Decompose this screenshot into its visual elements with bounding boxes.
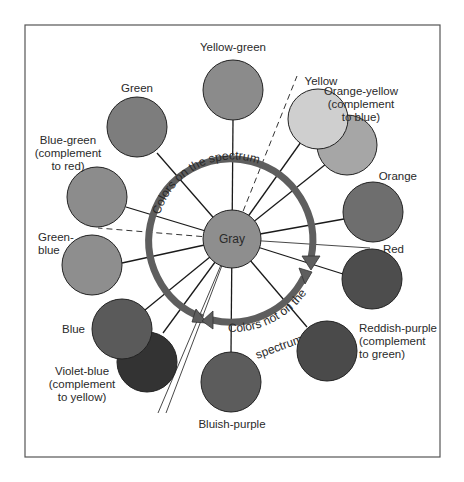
- orange-circle: [343, 182, 403, 242]
- arrowhead-right-icon: [302, 256, 320, 270]
- green-circle: [107, 97, 167, 157]
- yellow-green-circle: [203, 60, 263, 120]
- reddish-purple-label: Reddish-purple(complementto green): [359, 322, 437, 360]
- blue-label: Blue: [62, 323, 85, 335]
- blue-green-label: Blue-green(complementto red): [35, 134, 102, 172]
- green-blue-circle: [62, 235, 122, 295]
- color-circle-diagram: Colors on the spectrum Colors not on the…: [0, 0, 464, 482]
- reddish-purple-circle: [297, 321, 357, 381]
- blue-green-circle: [67, 167, 127, 227]
- bluish-purple-label: Bluish-purple: [198, 418, 265, 430]
- blue-circle: [92, 299, 152, 359]
- gray-label: Gray: [219, 232, 245, 246]
- red-label: Red: [383, 243, 404, 255]
- orange-label: Orange: [379, 170, 417, 182]
- bluish-purple-circle: [201, 352, 261, 412]
- red-circle: [342, 249, 402, 309]
- yellow-green-label: Yellow-green: [200, 41, 266, 53]
- green-label: Green: [121, 82, 153, 94]
- violet-blue-label: Violet-blue(complementto yellow): [49, 365, 116, 403]
